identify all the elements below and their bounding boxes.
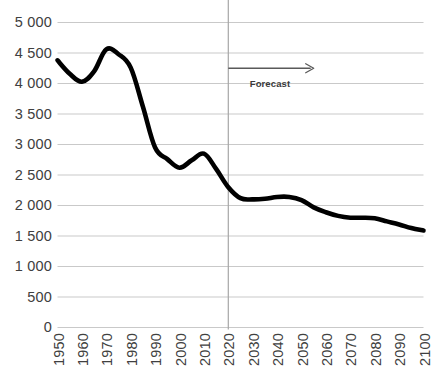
x-axis-tick-label: 2070 [344, 333, 359, 366]
data-line-series [58, 48, 424, 230]
y-axis-tick-label: 500 [0, 290, 52, 305]
y-axis-tick-labels: 05001 0001 5002 0002 5003 0003 5004 0004… [0, 0, 52, 340]
x-axis-tick-label: 2050 [296, 333, 311, 366]
x-axis-tick-label: 2100 [418, 333, 433, 366]
forecast-arrow-icon [228, 64, 313, 73]
x-axis-tick-label: 2060 [320, 333, 335, 366]
x-axis-tick-label: 2000 [174, 333, 189, 366]
y-axis-tick-label: 4 000 [0, 76, 52, 91]
x-axis-tick-label: 1970 [100, 333, 115, 366]
forecast-annotation-label: Forecast [250, 78, 290, 89]
y-axis-tick-label: 2 000 [0, 198, 52, 213]
y-axis-tick-label: 1 500 [0, 229, 52, 244]
y-axis-tick-label: 3 500 [0, 107, 52, 122]
x-axis-tick-label: 1980 [125, 333, 140, 366]
x-axis-tick-label: 2030 [247, 333, 262, 366]
x-axis-tick-label: 2020 [222, 333, 237, 366]
x-axis-tick-label: 1990 [149, 333, 164, 366]
x-axis-tick-label: 1950 [52, 333, 67, 366]
x-axis-tick-label: 2090 [393, 333, 408, 366]
y-axis-tick-label: 5 000 [0, 15, 52, 30]
y-axis-tick-label: 3 000 [0, 137, 52, 152]
y-axis-tick-label: 4 500 [0, 46, 52, 61]
x-axis-tick-label: 2040 [271, 333, 286, 366]
x-axis-tick-labels: 1950196019701980199020002010202020302040… [0, 329, 428, 373]
data-line [58, 48, 424, 230]
y-axis-tick-label: 2 500 [0, 168, 52, 183]
x-axis-tick-label: 2010 [198, 333, 213, 366]
y-axis-tick-label: 1 000 [0, 259, 52, 274]
x-axis-tick-label: 2080 [369, 333, 384, 366]
x-axis-tick-label: 1960 [76, 333, 91, 366]
